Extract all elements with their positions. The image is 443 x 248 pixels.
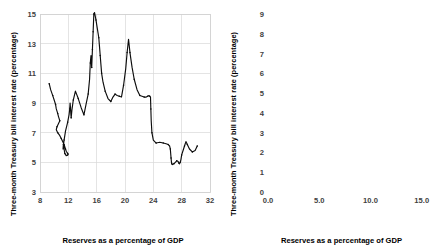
y-tick-label: 7: [18, 128, 36, 137]
x-tick-label: 0.0: [263, 196, 274, 205]
figure-two-panel-phase-plots: Three-month Treasury bill interest rate …: [0, 0, 443, 248]
y-tick-label: 2: [246, 148, 264, 157]
y-axis-title-right: Three-month Treasury bill interest rate …: [222, 0, 244, 248]
y-tick-label: 5: [246, 89, 264, 98]
data-series-left: [49, 13, 197, 165]
y-tick-label: 8: [246, 29, 264, 38]
y-tick-label: 3: [18, 188, 36, 197]
y-tick-label: 4: [246, 108, 264, 117]
x-axis-title-left: Reserves as a percentage of GDP: [24, 236, 222, 245]
x-tick-label: 20: [121, 196, 129, 205]
y-tick-label: 13: [18, 39, 36, 48]
y-tick-label: 9: [18, 99, 36, 108]
y-tick-label: 5: [18, 158, 36, 167]
x-tick-label: 15.0: [414, 196, 429, 205]
x-tick-label: 10.0: [363, 196, 378, 205]
y-tick-label: 15: [18, 10, 36, 19]
plot-area-left: [40, 14, 210, 192]
x-tick-label: 5.0: [314, 196, 325, 205]
y-tick-label: 6: [246, 69, 264, 78]
x-tick-label: 16: [92, 196, 100, 205]
x-tick-label: 28: [177, 196, 185, 205]
x-tick-label: 24: [149, 196, 157, 205]
y-tick-label: 0: [246, 188, 264, 197]
x-tick-label: 12: [64, 196, 72, 205]
y-tick-label: 3: [246, 128, 264, 137]
y-axis-title-left: Three-month Treasury bill interest rate …: [2, 0, 24, 248]
chart-panel-right: Three-month Treasury bill interest rate …: [222, 0, 443, 248]
y-tick-label: 11: [18, 69, 36, 78]
chart-panel-left: Three-month Treasury bill interest rate …: [0, 0, 222, 248]
x-tick-label: 32: [206, 196, 214, 205]
y-tick-label: 1: [246, 168, 264, 177]
x-axis-title-right: Reserves as a percentage of GDP: [240, 236, 443, 245]
y-tick-label: 7: [246, 49, 264, 58]
gridlines-left: [40, 14, 210, 192]
plot-svg-left: [40, 14, 210, 192]
y-tick-label: 9: [246, 10, 264, 19]
x-tick-label: 8: [38, 196, 42, 205]
